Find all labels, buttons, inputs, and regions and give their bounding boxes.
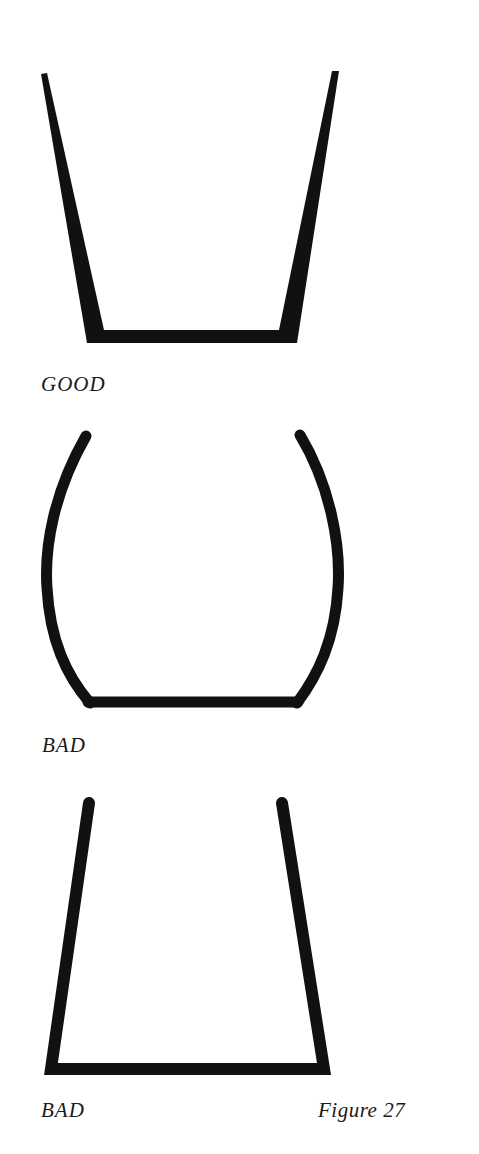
bad-uniform-walls-and-base [51,803,324,1069]
bad-curved-left-wall [47,436,90,703]
figure-caption: Figure 27 [318,1098,405,1123]
bad-curved-right-wall [297,435,338,703]
figure-canvas [0,0,479,1154]
good-label: GOOD [41,372,106,397]
bad-curved-label: BAD [42,733,86,758]
bad-uniform-vessel-shape [51,803,324,1069]
good-base [88,330,294,343]
good-right-wall [279,71,339,343]
bad-curved-vessel-shape [47,435,339,703]
good-vessel-shape [41,71,339,343]
good-left-wall [41,73,104,343]
bad-uniform-label: BAD [41,1098,85,1123]
